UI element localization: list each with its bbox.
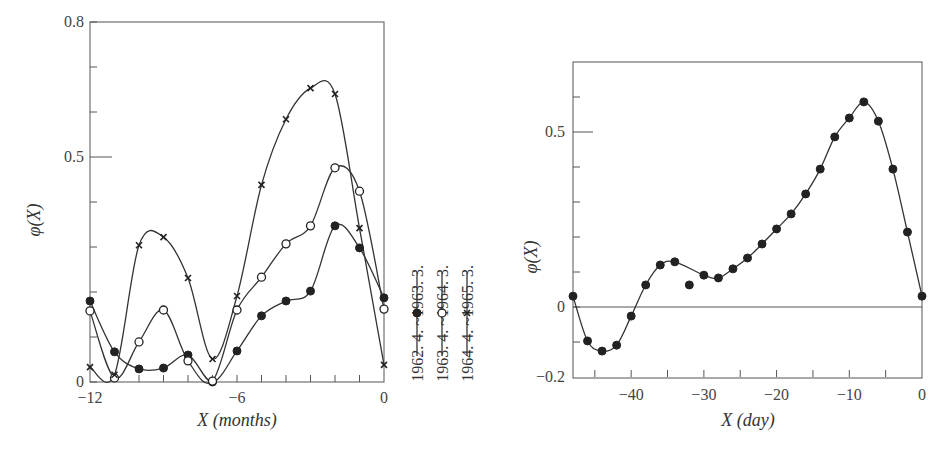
right-data-point [889,165,897,173]
right-data-point [918,292,926,300]
left-data-point [380,294,388,302]
left-data-point [282,297,290,305]
right-data-point [744,254,752,262]
right-data-point [816,165,824,173]
right-data-point [903,228,911,236]
right-x-tick-label: −30 [691,386,716,403]
right-x-tick-label: −40 [619,386,644,403]
right-plot-frame [573,62,922,378]
right-x-tick-label: 0 [918,386,926,403]
left-x-axis: −12−60 [77,375,388,406]
left-series-line-3 [90,81,384,383]
left-data-point [86,307,94,315]
left-data-point [356,187,364,195]
right-x-axis: −40−30−20−100 [595,370,926,403]
legend-marker [413,309,421,317]
left-y-axis-label: φ(X) [24,204,45,237]
left-data-point [332,91,338,97]
left-data-point [135,365,143,373]
right-data-point [714,274,722,282]
left-y-tick-label: 0.5 [64,148,84,165]
right-series-line [573,102,922,351]
left-x-tick-label: −6 [228,389,245,406]
right-series [573,102,922,351]
left-data-point [308,85,314,91]
left-y-tick-label: 0.8 [64,13,84,30]
left-data-point [283,116,289,122]
right-data-point [598,347,606,355]
right-data-point [569,292,577,300]
right-data-point [831,133,839,141]
left-data-point [86,297,94,305]
right-y-tick-label: 0 [557,298,565,315]
right-data-point [656,261,664,269]
legend: 1962. 4. ~1963. 3.1963. 4. ~1964. 3.1964… [409,265,476,382]
right-data-point [700,271,708,279]
left-data-point [111,348,119,356]
right-data-point [802,190,810,198]
legend-marker [438,309,446,317]
right-data-point [773,225,781,233]
left-chart: 00.50.8 −12−60 X (months) φ(X) 1962. 4. … [24,13,476,431]
right-data-point [787,210,795,218]
right-data-point [685,281,693,289]
right-x-tick-label: −20 [764,386,789,403]
left-x-tick-label: −12 [77,389,102,406]
right-data-point [613,341,621,349]
right-data-point [860,98,868,106]
right-markers [569,98,926,355]
left-data-point [161,234,167,240]
left-data-point [184,357,192,365]
left-data-point [331,222,339,230]
right-x-axis-label: X (day) [720,410,774,431]
left-data-point [307,287,315,295]
left-series-line-1 [90,224,384,382]
left-data-point [380,305,388,313]
right-data-point [758,240,766,248]
left-data-point [258,273,266,281]
left-plot-frame [90,22,384,382]
left-data-point [307,222,315,230]
right-chart: −0.200.5 −40−30−20−100 X (day) φ(X) [521,62,926,431]
left-series [90,81,384,384]
figure: 00.50.8 −12−60 X (months) φ(X) 1962. 4. … [0,0,949,461]
left-data-point [209,377,217,385]
left-data-point [233,347,241,355]
right-y-tick-label: 0.5 [545,123,565,140]
right-y-axis-label: φ(X) [521,241,542,274]
left-data-point [258,312,266,320]
left-data-point [160,306,168,314]
right-data-point [627,312,635,320]
right-data-point [729,265,737,273]
right-data-point [874,117,882,125]
left-y-tick-label: 0 [76,373,84,390]
right-data-point [845,114,853,122]
right-x-tick-label: −10 [837,386,862,403]
left-data-point [233,306,241,314]
left-data-point [356,244,364,252]
left-data-point [160,364,168,372]
left-data-point [331,164,339,172]
right-data-point [642,281,650,289]
left-x-axis-label: X (months) [196,410,277,431]
left-data-point [135,338,143,346]
left-data-point [282,240,290,248]
right-data-point [584,337,592,345]
left-data-point [185,275,191,281]
left-x-tick-label: 0 [380,389,388,406]
right-y-tick-label: −0.2 [536,368,565,385]
right-data-point [671,258,679,266]
